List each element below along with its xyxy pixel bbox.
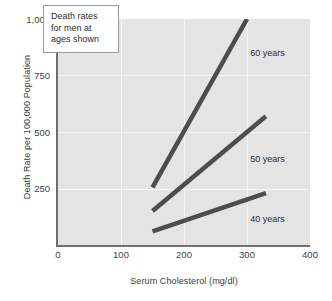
x-tick-label-0: 0 [38,249,78,260]
series-label-60-years: 60 years [250,48,285,58]
annotation-line-3: ages shown [51,34,112,46]
x-axis-title: Serum Cholesterol (mg/dl) [58,276,310,286]
series-label-40-years: 40 years [250,214,285,224]
y-tick-label-250: 250 [4,183,50,194]
series-line-60-years [153,19,248,187]
annotation-line-1: Death rates [51,11,112,23]
annotation-box: Death rates for men at ages shown [43,5,119,53]
x-axis-line [56,245,310,247]
x-tick-label-400: 400 [290,249,330,260]
chart-figure: Death Rate per 100,000 Population 1,000 … [0,0,332,301]
y-axis-line [56,19,58,246]
annotation-line-2: for men at [51,23,112,35]
series-label-50-years: 50 years [250,154,285,164]
y-tick-label-750: 750 [4,70,50,81]
x-tick-label-100: 100 [101,249,141,260]
y-tick-label-500: 500 [4,127,50,138]
x-tick-label-300: 300 [227,249,267,260]
x-tick-label-200: 200 [164,249,204,260]
